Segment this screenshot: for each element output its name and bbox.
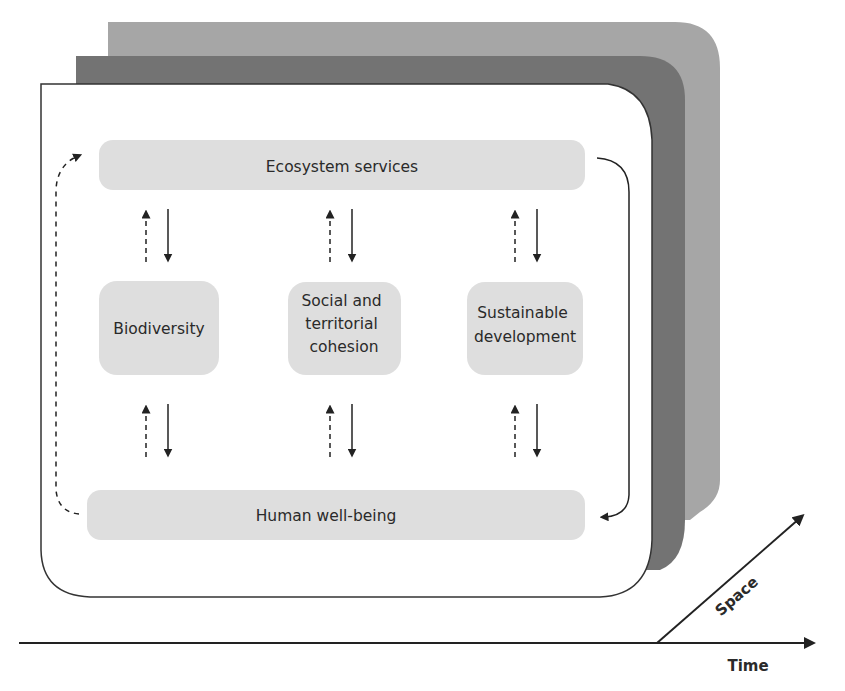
ecosystem-services-box: Ecosystem services [99, 140, 585, 190]
ecosystem-services-label: Ecosystem services [266, 158, 418, 176]
time-axis-label: Time [727, 657, 768, 675]
social-territorial-cohesion-box: Social and territorial cohesion [288, 282, 401, 375]
sustainable-development-box: Sustainable development [467, 282, 583, 375]
diagram-canvas: Ecosystem services Human well-being Biod… [0, 0, 845, 691]
human-well-being-label: Human well-being [256, 507, 397, 525]
biodiversity-box: Biodiversity [99, 281, 219, 375]
space-axis-label: Space [712, 573, 762, 620]
social-territorial-cohesion-label: Social and territorial cohesion [302, 292, 387, 356]
human-well-being-box: Human well-being [87, 490, 585, 540]
biodiversity-label: Biodiversity [113, 320, 204, 338]
